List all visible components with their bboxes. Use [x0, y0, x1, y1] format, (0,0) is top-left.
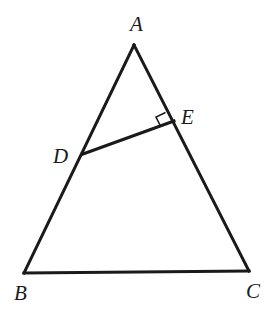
segment-ab	[24, 45, 134, 273]
triangle-diagram: A B C D E	[0, 0, 271, 309]
segment-bc	[24, 271, 249, 273]
segment-ca	[134, 45, 249, 271]
label-b: B	[14, 281, 27, 305]
label-d: D	[52, 144, 68, 168]
label-c: C	[246, 279, 261, 303]
label-e: E	[180, 105, 194, 129]
label-a: A	[128, 12, 143, 36]
